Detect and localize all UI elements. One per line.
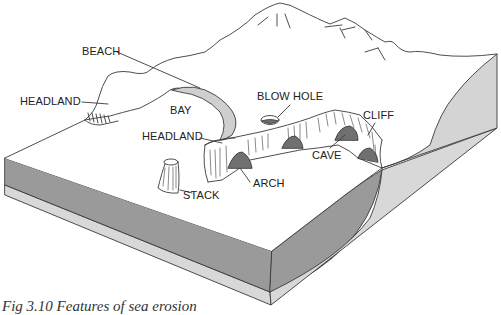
stack-top: [164, 159, 178, 165]
label-beach: BEACH: [82, 46, 120, 57]
label-arch: ARCH: [253, 178, 285, 189]
cliff-band-right-edge: [380, 140, 382, 168]
cave-shape-3: [358, 148, 378, 162]
leader-blow-hole: [278, 105, 290, 117]
label-cave: CAVE: [312, 150, 342, 161]
label-stack: STACK: [183, 190, 219, 201]
leader-headland-left: [82, 102, 108, 104]
label-headland-left: HEADLAND: [20, 96, 81, 107]
label-cliff: CLIFF: [363, 110, 394, 121]
label-headland-center: HEADLAND: [142, 131, 203, 142]
figure-caption: Fig 3.10 Features of sea erosion: [2, 298, 197, 315]
cave-shape-2: [335, 126, 358, 140]
mountain-hatching: [258, 14, 385, 60]
label-bay: BAY: [170, 105, 192, 116]
leader-beach: [117, 52, 200, 88]
label-blow-hole: BLOW HOLE: [257, 91, 323, 102]
